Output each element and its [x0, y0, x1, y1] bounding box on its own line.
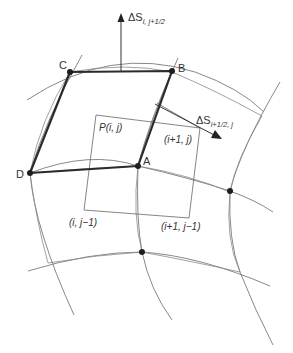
surface-vector-north-label: ΔSi, j+1/2 — [128, 11, 166, 26]
surface-vector-north-arrowhead — [118, 13, 125, 22]
grid-node-south — [139, 249, 145, 255]
mesh-diagram: A B C D P(i, j) (i+1, j) (i, j−1) (i+1, … — [0, 0, 293, 353]
diagram-canvas: A B C D P(i, j) (i+1, j) (i, j−1) (i+1, … — [0, 0, 293, 353]
vertex-label-d: D — [16, 168, 24, 180]
surface-vector-north-symbol: ΔS — [128, 11, 143, 23]
vertex-node-a — [135, 163, 141, 169]
vertex-label-a: A — [143, 155, 151, 167]
cv-label-southeast: (i+1, j−1) — [161, 221, 200, 232]
surface-vector-north-subscript: i, j+1/2 — [143, 17, 166, 26]
cv-label-south: (i, j−1) — [69, 217, 97, 228]
surface-vector-east-label: ΔSi+1/2, j — [196, 114, 233, 129]
grid-line-right — [230, 82, 280, 345]
surface-vector-east-subscript: i+1/2, j — [211, 120, 234, 129]
grid-node-east — [227, 188, 233, 194]
cv-label-center: P(i, j) — [99, 122, 122, 133]
surface-vector-east-symbol: ΔS — [196, 114, 211, 126]
vertex-node-c — [67, 69, 73, 75]
vertex-node-d — [27, 170, 33, 176]
grid-arc-bottom — [28, 252, 270, 286]
cv-label-east: (i+1, j) — [164, 134, 192, 145]
vertex-node-b — [169, 68, 175, 74]
grid-line-center — [138, 58, 179, 320]
vertex-label-c: C — [59, 59, 67, 71]
grid-line-left-inner — [30, 72, 70, 263]
grid-line-left — [30, 55, 82, 315]
grid-arc-middle-inner — [30, 166, 230, 192]
vertex-label-b: B — [178, 62, 185, 74]
